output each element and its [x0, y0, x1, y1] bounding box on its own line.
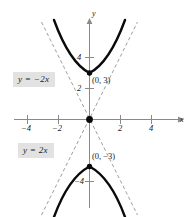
- y-tick-label-4: 4: [77, 53, 81, 62]
- asymptote-label-negative: y = −2x: [13, 72, 55, 87]
- x-tick-label--4: −4: [21, 124, 31, 133]
- asymptote-label-positive: y = 2x: [18, 143, 54, 158]
- hyperbola-figure: −4 −2 2 4 4 2 −4 x y (0, 3) (0, −3) y = …: [0, 0, 192, 217]
- x-tick-label-4: 4: [149, 124, 153, 133]
- y-axis: [87, 18, 93, 208]
- y-axis-arrow: [87, 18, 93, 24]
- graph-canvas: [0, 0, 192, 217]
- point-vertex-lower: [87, 164, 92, 169]
- y-axis-name: y: [92, 10, 96, 18]
- y-tick-label--4: −4: [74, 177, 84, 186]
- x-axis: [14, 117, 184, 123]
- vertex-label-upper: (0, 3): [92, 76, 110, 85]
- vertex-label-lower: (0, −3): [92, 152, 115, 161]
- point-origin: [86, 116, 93, 123]
- x-tick-label--2: −2: [52, 124, 62, 133]
- y-tick-label-2: 2: [77, 84, 81, 93]
- x-tick-label-2: 2: [118, 124, 122, 133]
- x-axis-name: x: [180, 116, 184, 124]
